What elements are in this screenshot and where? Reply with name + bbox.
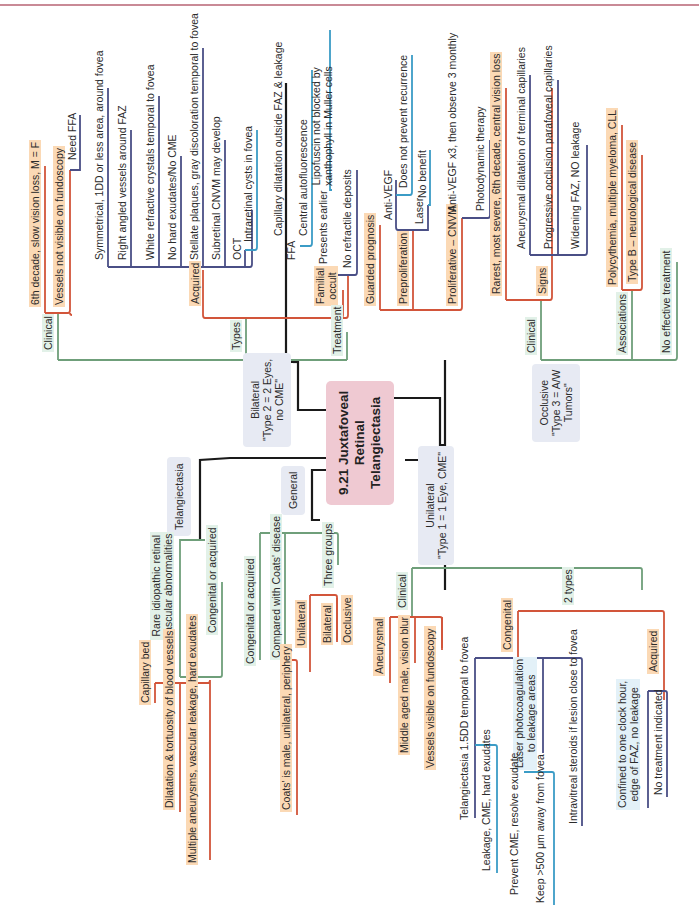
anti-vegf-label: Anti-VEGF: [382, 168, 394, 222]
oct-detail: Intraretinal cysts in fovea: [242, 124, 254, 244]
occlusive-clinical-label: Clinical: [525, 317, 537, 355]
coats-detail: Coats' is male, unilateral, periphery: [280, 644, 292, 812]
acquired-unilateral-treatment: No treatment indicated: [652, 687, 664, 797]
guarded-prognosis: Guarded prognosis: [364, 213, 376, 306]
anti-vegf-detail: Does not prevent recurrence: [397, 53, 409, 190]
acquired-item: Symmetrical, 1DD or less area, around fo…: [93, 48, 105, 262]
aneurysmal-label: Aneurysmal: [373, 617, 385, 676]
associations-item: Polycythemia, multiple myeloma, CLL: [606, 108, 618, 287]
ffa-lipofuscin: Lipofuscin not blocked by xanthophyll in…: [310, 64, 334, 188]
acquired-item: Stellate plaques, gray discoloration tem…: [188, 11, 200, 262]
congenital-label: Congenital: [501, 598, 513, 652]
proliferative-item: Anti-VEGF x3, then observe 3 monthly: [446, 31, 458, 214]
category-general: General: [281, 466, 305, 515]
laser-label: Laser: [413, 196, 425, 226]
acquired-unilateral-label: Acquired: [647, 629, 659, 674]
types-label: Types: [230, 320, 242, 352]
congenital-telangiectasia-detail: Leakage, CME, hard exudates: [480, 727, 492, 873]
familial-occult-item: No refractile deposits: [341, 167, 353, 270]
acquired-item: Subretinal CNVM may develop: [210, 114, 222, 262]
unilateral-clinical-label: Clinical: [396, 572, 408, 610]
proliferative-label: Proliferative – CNVM: [446, 204, 458, 306]
acquired-item: Right angled vessels around FAZ: [116, 103, 128, 262]
category-unilateral: Unilateral "Type 1 = 1 Eye, CME": [418, 446, 454, 565]
two-types-label: 2 types: [562, 567, 574, 605]
laser-item: Prevent CME, resolve exudate: [508, 751, 520, 897]
coats-label: Compared with Coats' disease: [270, 514, 282, 660]
occlusive-clinical-item: Rarest, most severe, 6th decade, central…: [490, 52, 502, 296]
category-bilateral: Bilateral "Type 2 = 2 Eyes, no CME": [243, 353, 291, 447]
category-occlusive: Occlusive "Type 3 = A/W Tumors": [532, 364, 580, 442]
three-groups-item: Unilateral: [295, 600, 307, 648]
general-congenital-or-acquired: Congenital or acquired: [244, 556, 256, 666]
laser-item: Keep >500 μm away from fovea: [534, 752, 546, 905]
central-topic: 9.21 Juxtafoveal Retinal Telangiectasia: [326, 381, 394, 505]
proliferative-item: Photodynamic therapy: [474, 105, 486, 213]
acquired-item: No hard exudates/No CME: [166, 133, 178, 262]
three-groups-item: Bilateral: [321, 603, 333, 645]
need-ffa: Need FFA: [66, 111, 78, 162]
laser-detail: No benefit: [416, 148, 428, 200]
congenital-steroids: Intravitreal steroids if lesion close to…: [567, 627, 579, 826]
unilateral-clinical-item: Middle aged male, vision blur: [398, 615, 410, 755]
bilateral-clinical-label: Clinical: [42, 314, 54, 352]
associations-label: Associations: [616, 292, 628, 355]
telangiectasia-congenital-or-acquired: Congenital or acquired: [206, 525, 218, 635]
telangiectasia-item: Dilatation & tortuosity of blood vessels: [163, 629, 175, 810]
congenital-telangiectasia: Telangiectasia 1.5DD temporal to fovea: [458, 635, 470, 822]
signs-label: Signs: [536, 266, 548, 296]
telangiectasia-item: Multiple aneurysms, vascular leakage, ha…: [186, 614, 198, 865]
acquired-item: White refractive crystals temporal to fo…: [144, 63, 156, 263]
occlusive-treatment: No effective treatment: [660, 248, 672, 355]
ffa-autofluorescence: Central autofluorescence: [297, 117, 309, 238]
signs-item: Widening FAZ, NO leakage: [569, 120, 581, 251]
bilateral-clinical-item: Vessels not visible on fundoscopy: [53, 146, 65, 307]
ffa-detail: Capillary dilatation outside FAZ & leaka…: [272, 40, 284, 238]
bilateral-treatment-label: Treatment: [331, 305, 343, 356]
acquired-label: Acquired: [189, 261, 201, 306]
familial-occult-item: Presents earlier: [317, 188, 329, 266]
telangiectasia-definition: Rare idiopathic retinal vascular abnorma…: [150, 532, 174, 640]
familial-occult-label: Familial occult: [314, 266, 338, 306]
signs-item: Progressive occlusion parafoveal capilla…: [542, 43, 554, 251]
ffa-label: FFA: [285, 239, 297, 262]
associations-item: Type B – neurological disease: [626, 140, 638, 284]
unilateral-clinical-item: Vessels visible on fundoscopy: [424, 627, 436, 771]
acquired-unilateral-detail: Confined to one clock hour, edge of FAZ,…: [616, 679, 640, 810]
three-groups-label: Three groups: [322, 522, 334, 588]
preproliferation-label: Preproliferation: [397, 231, 409, 306]
telangiectasia-item: Capillary bed: [139, 640, 151, 705]
bilateral-clinical-item: 6th decade, slow vision loss, M = F: [29, 140, 41, 307]
signs-item: Aneurysmal dilatation of terminal capill…: [515, 45, 527, 251]
three-groups-item: Occlusive: [341, 595, 353, 645]
category-telangiectasia: Telangiectasia: [167, 457, 191, 536]
